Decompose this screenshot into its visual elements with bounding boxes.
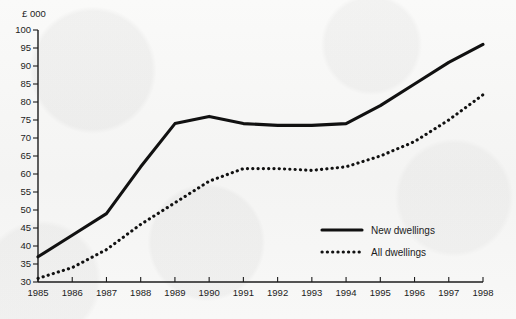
y-axis-tick-labels: 3035404550556065707580859095100	[15, 24, 31, 287]
x-axis-tick-label: 1995	[370, 287, 391, 298]
legend-label-all-dwellings: All dwellings	[371, 247, 426, 258]
x-axis-tick-label: 1998	[472, 287, 493, 298]
x-axis-tick-label: 1993	[301, 287, 322, 298]
y-axis-tick-marks	[33, 30, 38, 282]
y-axis-tick-label: 90	[20, 60, 31, 71]
x-axis-tick-label: 1990	[199, 287, 220, 298]
x-axis-tick-labels: 1985198619871988198919901991199219931994…	[27, 287, 493, 298]
y-axis-tick-label: 30	[20, 276, 31, 287]
y-axis-tick-label: 95	[20, 42, 31, 53]
x-axis-tick-label: 1988	[130, 287, 151, 298]
x-axis-tick-label: 1997	[438, 287, 459, 298]
line-chart: £ 000 3035404550556065707580859095100 19…	[0, 0, 516, 319]
y-axis-tick-label: 70	[20, 132, 31, 143]
y-axis-tick-label: 35	[20, 258, 31, 269]
y-axis-tick-label: 80	[20, 96, 31, 107]
y-axis-tick-label: 55	[20, 186, 31, 197]
y-axis-tick-label: 60	[20, 168, 31, 179]
x-axis-tick-label: 1987	[96, 287, 117, 298]
x-axis-tick-label: 1992	[267, 287, 288, 298]
y-axis-tick-label: 50	[20, 204, 31, 215]
y-axis-tick-label: 100	[15, 24, 31, 35]
x-axis-tick-label: 1996	[404, 287, 425, 298]
y-axis-tick-label: 85	[20, 78, 31, 89]
legend-label-new-dwellings: New dwellings	[371, 225, 435, 236]
y-axis-tick-label: 65	[20, 150, 31, 161]
y-axis-tick-label: 75	[20, 114, 31, 125]
y-axis-tick-label: 45	[20, 222, 31, 233]
x-axis-tick-marks	[38, 277, 483, 282]
x-axis-tick-label: 1989	[164, 287, 185, 298]
x-axis-tick-label: 1994	[336, 287, 357, 298]
y-axis-unit-label: £ 000	[22, 8, 46, 19]
x-axis-tick-label: 1985	[27, 287, 48, 298]
legend: New dwellings All dwellings	[322, 225, 435, 258]
y-axis-tick-label: 40	[20, 240, 31, 251]
x-axis-tick-label: 1986	[62, 287, 83, 298]
x-axis-tick-label: 1991	[233, 287, 254, 298]
